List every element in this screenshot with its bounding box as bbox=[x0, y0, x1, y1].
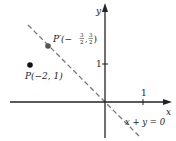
x-axis-arrow-icon bbox=[163, 99, 172, 105]
x-axis-label: x bbox=[166, 107, 171, 117]
y-axis-arrow-icon bbox=[102, 3, 108, 12]
frac1-numerator: 3 bbox=[80, 32, 84, 38]
x-tick-label: 1 bbox=[141, 88, 147, 98]
y-tick-label: 1 bbox=[96, 59, 102, 69]
close-paren: ) bbox=[94, 34, 98, 44]
point-p-marker bbox=[27, 62, 33, 68]
line-equation-label: x + y = 0 bbox=[125, 117, 166, 127]
point-p-prime-label: P′(− bbox=[52, 34, 72, 44]
frac1-denominator: 2 bbox=[80, 39, 84, 45]
point-p-label: P(−2, 1) bbox=[24, 71, 63, 81]
frac2-numerator: 3 bbox=[89, 32, 93, 38]
frac2-denominator: 2 bbox=[89, 39, 93, 45]
y-axis-label: y bbox=[95, 6, 102, 16]
coordinate-diagram: x y 1 1 x + y = 0 P(−2, 1) P′(− 3 2 , 3 … bbox=[0, 0, 176, 141]
point-p-prime-marker bbox=[45, 43, 51, 49]
comma: , bbox=[85, 35, 88, 44]
